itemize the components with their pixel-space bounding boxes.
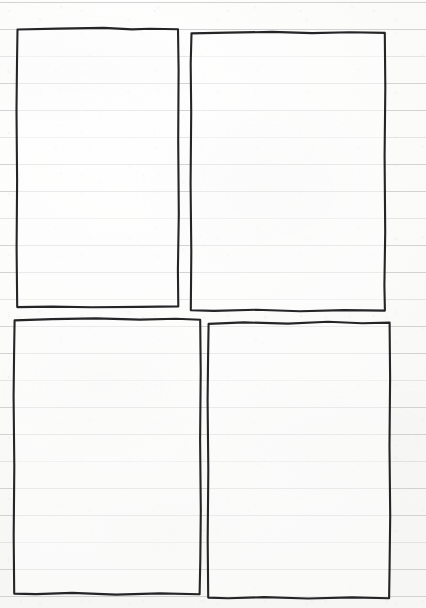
top-right-frame-interior <box>191 32 386 311</box>
bottom-right-frame-interior <box>208 322 391 599</box>
scanned-notebook-page <box>0 0 426 608</box>
bottom-left-frame-interior <box>14 318 201 594</box>
top-left-frame-interior <box>17 28 179 307</box>
frames-svg <box>0 0 426 608</box>
hand-drawn-frames-group <box>0 0 426 608</box>
